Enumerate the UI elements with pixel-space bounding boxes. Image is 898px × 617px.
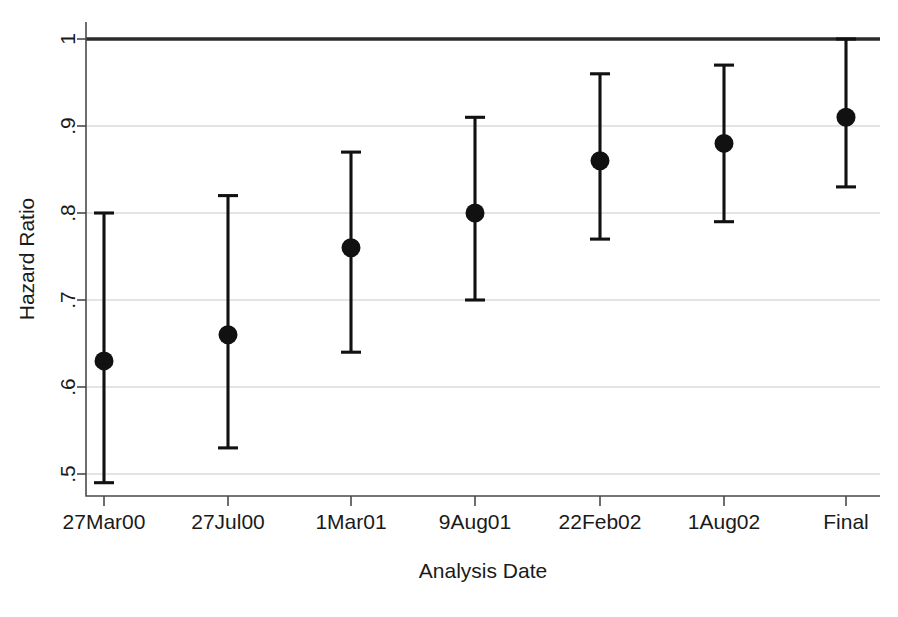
x-tick-label-final: Final: [823, 510, 869, 533]
estimate-marker: [95, 351, 114, 370]
estimate-marker: [715, 134, 734, 153]
estimate-marker: [837, 108, 856, 127]
hazard-ratio-forest-plot: 1.9.8.7.6.5 27Mar0027Jul001Mar019Aug0122…: [0, 0, 898, 617]
x-tick-label-1mar01: 1Mar01: [315, 510, 386, 533]
x-tick-label-27mar00: 27Mar00: [63, 510, 146, 533]
y-tick-label: .8: [56, 204, 79, 222]
x-tick-label-1aug02: 1Aug02: [688, 510, 760, 533]
estimate-marker: [342, 238, 361, 257]
y-tick-label: .9: [56, 117, 79, 135]
x-tick-label-9aug01: 9Aug01: [439, 510, 511, 533]
x-axis-title: Analysis Date: [419, 559, 547, 582]
y-tick-label: 1: [56, 33, 79, 45]
estimate-marker: [466, 204, 485, 223]
y-tick-label: .5: [56, 465, 79, 483]
chart-canvas: 1.9.8.7.6.5 27Mar0027Jul001Mar019Aug0122…: [0, 0, 898, 617]
x-tick-label-22feb02: 22Feb02: [559, 510, 642, 533]
estimate-marker: [219, 325, 238, 344]
y-tick-label: .7: [56, 291, 79, 309]
estimate-marker: [591, 151, 610, 170]
x-tick-label-27jul00: 27Jul00: [191, 510, 265, 533]
y-axis-title: Hazard Ratio: [15, 198, 38, 321]
y-tick-label: .6: [56, 378, 79, 396]
